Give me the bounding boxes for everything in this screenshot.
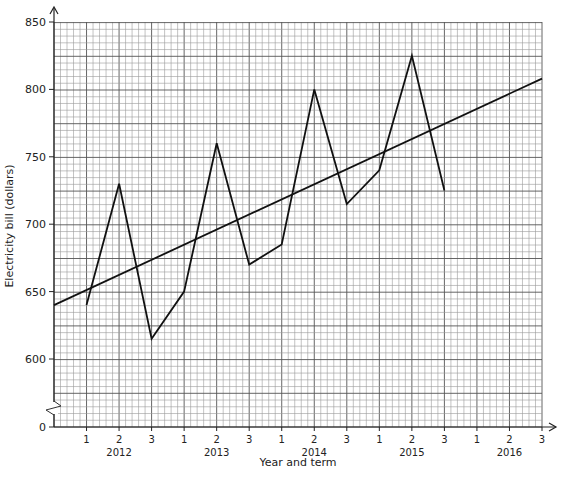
y-tick-label: 800 [25,83,46,96]
x-tick-label: 3 [148,434,154,445]
x-tick-label: 1 [376,434,382,445]
x-tick-label: 2 [506,434,512,445]
x-tick-label: 2 [213,434,219,445]
year-label: 2016 [497,447,522,458]
y-tick-label: 650 [25,286,46,299]
year-label: 2012 [106,447,131,458]
year-label: 2015 [399,447,424,458]
x-tick-label: 2 [409,434,415,445]
x-tick-label: 2 [311,434,317,445]
x-tick-label: 1 [279,434,285,445]
x-tick-label: 3 [539,434,545,445]
x-tick-label: 3 [441,434,447,445]
x-tick-label: 1 [83,434,89,445]
y-tick-label: 700 [25,218,46,231]
x-tick-label: 1 [181,434,187,445]
x-tick-label: 1 [474,434,480,445]
x-axis-label: Year and term [258,456,336,469]
x-tick-label: 3 [344,434,350,445]
bill-line [87,56,445,339]
y-tick-label: 750 [25,151,46,164]
y-tick-label: 850 [25,16,46,29]
axis-ticks: 0600650700750800850123123123123123201220… [25,16,545,458]
chart-canvas: 0600650700750800850123123123123123201220… [0,0,566,481]
x-tick-label: 3 [246,434,252,445]
y-axis-label: Electricity bill (dollars) [3,164,16,287]
y-tick-label: 0 [39,421,46,434]
x-tick-label: 2 [116,434,122,445]
trend-line [54,79,542,306]
year-label: 2013 [204,447,229,458]
y-tick-label: 600 [25,353,46,366]
data-series [54,56,542,339]
line-chart: 0600650700750800850123123123123123201220… [0,0,566,481]
